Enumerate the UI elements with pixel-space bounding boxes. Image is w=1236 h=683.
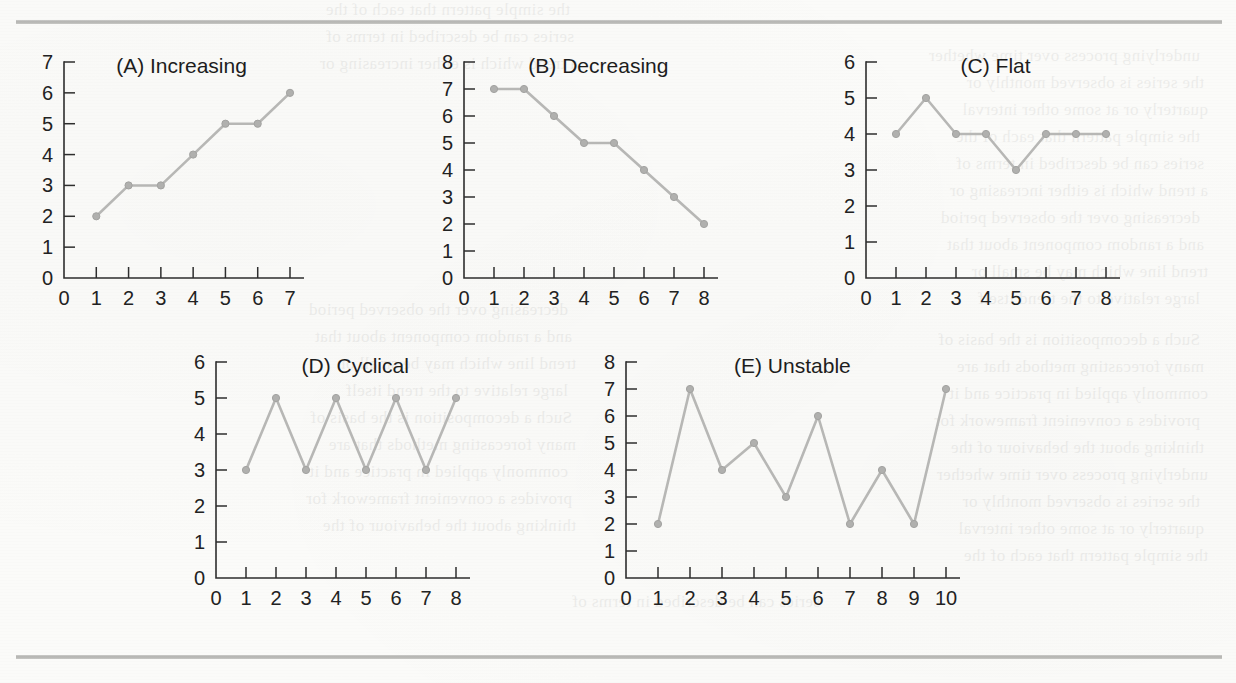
x-tick-label: 3 bbox=[716, 587, 727, 609]
y-tick-label: 2 bbox=[42, 205, 53, 227]
data-point-marker bbox=[302, 466, 309, 473]
data-point-marker bbox=[782, 493, 789, 500]
series-line-e bbox=[658, 389, 946, 524]
y-tick-label: 4 bbox=[442, 159, 453, 181]
data-point-marker bbox=[640, 166, 647, 173]
x-tick-label: 6 bbox=[252, 287, 263, 309]
data-point-marker bbox=[1012, 166, 1019, 173]
x-tick-label: 8 bbox=[698, 287, 709, 309]
y-tick-label: 4 bbox=[194, 423, 205, 445]
data-point-marker bbox=[520, 85, 527, 92]
data-point-marker bbox=[286, 89, 293, 96]
data-point-marker bbox=[700, 220, 707, 227]
ghost-text-line: and a random component about that bbox=[12, 327, 572, 347]
x-tick-label: 6 bbox=[390, 587, 401, 609]
data-point-marker bbox=[686, 385, 693, 392]
data-point-marker bbox=[750, 439, 757, 446]
axis-spines bbox=[464, 62, 718, 278]
data-point-marker bbox=[580, 139, 587, 146]
y-tick-label: 3 bbox=[844, 159, 855, 181]
series-line-d bbox=[246, 398, 456, 470]
x-tick-label: 5 bbox=[220, 287, 231, 309]
chart-svg-a: 0123456701234567(A) Increasing bbox=[18, 48, 304, 314]
data-point-marker bbox=[982, 130, 989, 137]
data-point-marker bbox=[242, 466, 249, 473]
data-point-marker bbox=[910, 520, 917, 527]
y-tick-label: 0 bbox=[442, 267, 453, 289]
chart-panel-c: 0123456012345678(C) Flat bbox=[820, 48, 1120, 314]
y-tick-label: 2 bbox=[442, 213, 453, 235]
data-point-marker bbox=[422, 466, 429, 473]
data-point-marker bbox=[452, 394, 459, 401]
y-tick-label: 0 bbox=[604, 567, 615, 589]
ghost-text-line: the simple pattern that each of the bbox=[10, 0, 570, 20]
y-tick-label: 4 bbox=[844, 123, 855, 145]
data-point-marker bbox=[670, 193, 677, 200]
header-rule bbox=[16, 20, 1222, 24]
y-tick-label: 1 bbox=[604, 540, 615, 562]
y-tick-label: 8 bbox=[442, 51, 453, 73]
x-tick-label: 0 bbox=[458, 287, 469, 309]
chart-svg-e: 012345678012345678910(E) Unstable bbox=[580, 348, 960, 614]
data-point-marker bbox=[190, 151, 197, 158]
y-tick-label: 4 bbox=[42, 144, 53, 166]
data-point-marker bbox=[814, 412, 821, 419]
x-tick-label: 5 bbox=[360, 587, 371, 609]
chart-panel-e: 012345678012345678910(E) Unstable bbox=[580, 348, 960, 614]
data-point-marker bbox=[392, 394, 399, 401]
x-tick-label: 4 bbox=[330, 587, 341, 609]
y-tick-label: 0 bbox=[42, 267, 53, 289]
x-tick-label: 7 bbox=[844, 587, 855, 609]
chart-svg-d: 0123456012345678(D) Cyclical bbox=[170, 348, 470, 614]
y-tick-label: 5 bbox=[604, 432, 615, 454]
x-tick-label: 1 bbox=[652, 587, 663, 609]
x-tick-label: 9 bbox=[908, 587, 919, 609]
y-tick-label: 6 bbox=[604, 405, 615, 427]
data-point-marker bbox=[654, 520, 661, 527]
axis-spines bbox=[866, 62, 1120, 278]
x-tick-label: 4 bbox=[980, 287, 991, 309]
x-tick-label: 0 bbox=[58, 287, 69, 309]
x-tick-label: 1 bbox=[240, 587, 251, 609]
x-tick-label: 2 bbox=[920, 287, 931, 309]
y-tick-label: 7 bbox=[442, 78, 453, 100]
y-tick-label: 6 bbox=[42, 82, 53, 104]
axis-spines bbox=[626, 362, 960, 578]
chart-title-a: (A) Increasing bbox=[116, 54, 247, 77]
data-point-marker bbox=[254, 120, 261, 127]
x-tick-label: 8 bbox=[450, 587, 461, 609]
chart-panel-d: 0123456012345678(D) Cyclical bbox=[170, 348, 470, 614]
y-tick-label: 5 bbox=[442, 132, 453, 154]
y-tick-label: 6 bbox=[194, 351, 205, 373]
y-tick-label: 3 bbox=[604, 486, 615, 508]
chart-title-c: (C) Flat bbox=[961, 54, 1031, 77]
y-tick-label: 2 bbox=[194, 495, 205, 517]
x-tick-label: 1 bbox=[488, 287, 499, 309]
x-tick-label: 4 bbox=[188, 287, 199, 309]
data-point-marker bbox=[878, 466, 885, 473]
y-tick-label: 4 bbox=[604, 459, 615, 481]
x-tick-label: 0 bbox=[860, 287, 871, 309]
data-point-marker bbox=[892, 130, 899, 137]
y-tick-label: 0 bbox=[844, 267, 855, 289]
footer-rule bbox=[16, 655, 1222, 659]
y-tick-label: 5 bbox=[194, 387, 205, 409]
y-tick-label: 2 bbox=[604, 513, 615, 535]
y-tick-label: 2 bbox=[844, 195, 855, 217]
y-tick-label: 1 bbox=[194, 531, 205, 553]
data-point-marker bbox=[332, 394, 339, 401]
data-point-marker bbox=[942, 385, 949, 392]
data-point-marker bbox=[93, 213, 100, 220]
x-tick-label: 7 bbox=[1070, 287, 1081, 309]
chart-title-d: (D) Cyclical bbox=[302, 354, 409, 377]
y-tick-label: 7 bbox=[604, 378, 615, 400]
chart-svg-c: 0123456012345678(C) Flat bbox=[820, 48, 1120, 314]
x-tick-label: 3 bbox=[950, 287, 961, 309]
x-tick-label: 5 bbox=[608, 287, 619, 309]
y-tick-label: 3 bbox=[442, 186, 453, 208]
x-tick-label: 2 bbox=[684, 587, 695, 609]
x-tick-label: 8 bbox=[876, 587, 887, 609]
y-tick-label: 6 bbox=[442, 105, 453, 127]
ghost-text-line: series can be described in terms of bbox=[14, 27, 574, 47]
x-tick-label: 8 bbox=[1100, 287, 1111, 309]
